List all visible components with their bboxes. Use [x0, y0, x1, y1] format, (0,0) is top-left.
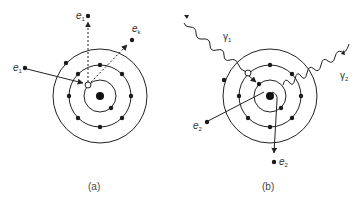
ejected-electron-arrow [91, 45, 127, 82]
electron-e2-bottom-arrow [272, 92, 277, 153]
nucleus-b [266, 92, 274, 100]
electron-e2-left-path [208, 92, 264, 121]
label-e2-bottom: e2 [279, 156, 289, 168]
incident-electron-dot [23, 66, 27, 70]
outer-electron-a [64, 61, 68, 65]
photon-gamma1-arrowhead [184, 15, 189, 19]
transition-arrow [249, 76, 256, 82]
electron-e2-bottom-dot [272, 160, 276, 164]
panel-b: γ1 γ2 e2 e2 (b) [184, 15, 349, 192]
photon-gamma2-arrowhead [341, 50, 345, 55]
vacancy-hole [245, 70, 251, 76]
electron-dot [109, 106, 113, 110]
panel-a: e1 e1 ek (a) [13, 10, 147, 192]
label-gamma2: γ2 [340, 70, 349, 82]
electron-dot [257, 82, 261, 86]
caption-b: (b) [262, 181, 274, 192]
photon-gamma1-wave [184, 23, 246, 72]
label-scattered-e1: e1 [76, 10, 86, 22]
vacancy-hole [85, 82, 91, 88]
label-incident-e1: e1 [13, 62, 23, 74]
ejected-electron-dot [130, 38, 134, 42]
label-e2-left: e2 [193, 120, 203, 132]
label-ejected-ek: ek [132, 23, 142, 35]
label-gamma1: γ1 [223, 31, 232, 43]
atomic-interaction-diagram: e1 e1 ek (a) γ1 [0, 0, 363, 205]
nucleus-a [96, 92, 104, 100]
caption-a: (a) [88, 181, 100, 192]
electron-e2-left-dot [205, 120, 209, 124]
scattered-electron-dot [86, 14, 90, 18]
electron-dot [279, 106, 283, 110]
outer-electron-b [222, 78, 226, 82]
